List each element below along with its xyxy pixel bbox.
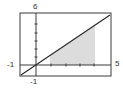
graph-plot xyxy=(0,0,123,88)
ymax-label: 6 xyxy=(33,3,37,11)
ymin-label: -1 xyxy=(30,78,37,86)
xmin-label: -1 xyxy=(7,61,14,69)
xmax-label: 5 xyxy=(115,60,119,68)
shaded-region xyxy=(50,25,95,65)
